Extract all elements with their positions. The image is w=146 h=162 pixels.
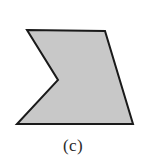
concave-polygon-shape xyxy=(17,30,133,124)
figure-caption-label: (c) xyxy=(0,136,146,156)
figure-panel: (c) xyxy=(0,0,146,162)
